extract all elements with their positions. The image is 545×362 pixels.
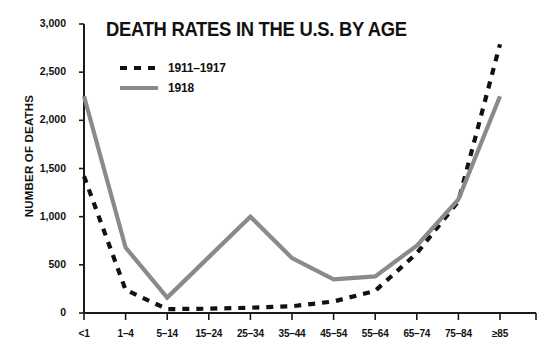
series-line-1918: [84, 96, 500, 297]
death-rates-line-chart: DEATH RATES IN THE U.S. BY AGE NUMBER OF…: [0, 0, 545, 362]
x-axis-tick-label: 35–44: [279, 328, 306, 339]
x-axis-tick-label: 75–84: [445, 328, 472, 339]
x-axis-tick-label: 1–4: [118, 328, 134, 339]
x-axis-tick-label: 55–64: [362, 328, 389, 339]
x-axis-tick-label: ≥85: [492, 328, 508, 339]
x-axis-tick-label: 45–54: [320, 328, 347, 339]
x-axis-tick-label: 15–24: [195, 328, 222, 339]
x-axis-tick-label: 65–74: [403, 328, 430, 339]
chart-series-lines: [84, 44, 500, 309]
x-axis-tick-label: 25–34: [237, 328, 264, 339]
x-axis-tick-label: <1: [78, 328, 89, 339]
x-axis-tick-label: 5–14: [156, 328, 177, 339]
plot-area: [0, 0, 545, 362]
